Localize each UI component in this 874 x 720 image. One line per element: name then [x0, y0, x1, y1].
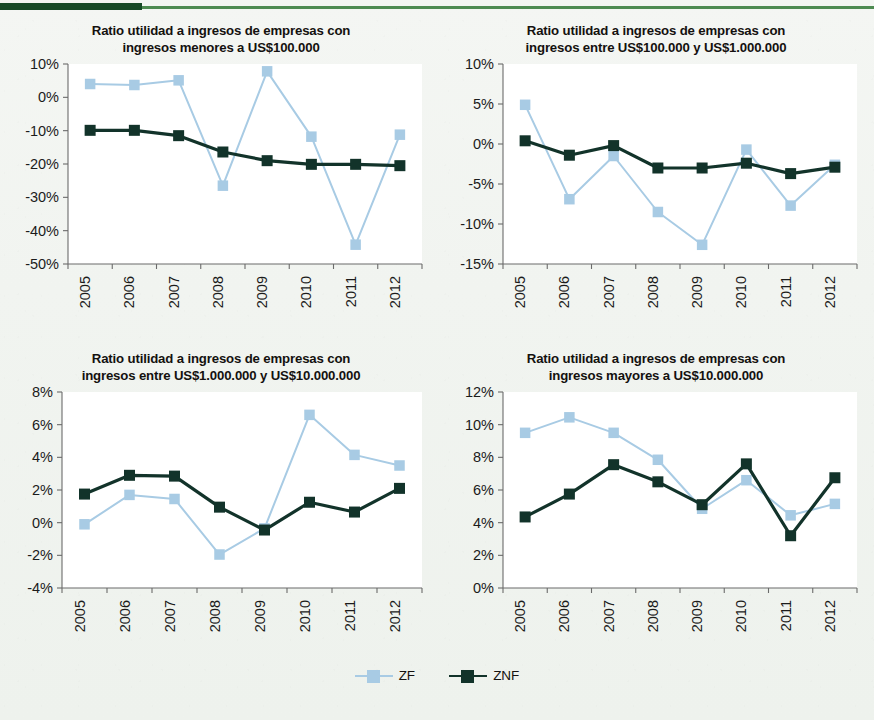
- chart-title-line-2: ingresos mayores a US$10.000.000: [441, 367, 871, 384]
- svg-text:2008: 2008: [645, 276, 661, 308]
- svg-text:10%: 10%: [465, 56, 494, 72]
- svg-text:-30%: -30%: [25, 189, 59, 205]
- svg-text:2006: 2006: [121, 276, 137, 308]
- svg-text:2011: 2011: [342, 600, 358, 631]
- svg-text:0%: 0%: [32, 515, 53, 531]
- svg-text:2011: 2011: [778, 600, 794, 631]
- legend-item-znf[interactable]: ZNF: [449, 668, 519, 683]
- legend-marker-square-icon: [367, 670, 380, 683]
- svg-text:-20%: -20%: [25, 156, 59, 172]
- svg-text:2006: 2006: [556, 600, 572, 632]
- chart-title-bottom-right: Ratio utilidad a ingresos de empresas co…: [441, 350, 871, 384]
- figure-page: Ratio utilidad a ingresos de empresas co…: [0, 0, 874, 720]
- svg-text:2006: 2006: [556, 276, 572, 308]
- plot-area-bottom-left: 8%6%4%2%0%-2%-4%200520062007200820092010…: [6, 384, 436, 662]
- svg-text:8%: 8%: [473, 449, 494, 465]
- plot-svg-top-right: 10%5%0%-5%-10%-15%2005200620072008200920…: [441, 56, 871, 344]
- svg-text:4%: 4%: [32, 449, 53, 465]
- svg-text:2005: 2005: [72, 600, 88, 632]
- svg-text:2011: 2011: [778, 276, 794, 307]
- chart-title-line-2: ingresos entre US$100.000 y US$1.000.000: [441, 39, 871, 56]
- plot-area-top-right: 10%5%0%-5%-10%-15%2005200620072008200920…: [441, 56, 871, 344]
- chart-title-line-2: ingresos entre US$1.000.000 y US$10.000.…: [6, 367, 436, 384]
- svg-text:12%: 12%: [465, 384, 494, 400]
- svg-text:-10%: -10%: [460, 216, 494, 232]
- svg-text:-15%: -15%: [460, 256, 494, 272]
- svg-text:0%: 0%: [473, 580, 494, 596]
- svg-text:2009: 2009: [252, 600, 268, 632]
- legend-swatch-zf: [355, 669, 393, 683]
- svg-text:0%: 0%: [473, 136, 494, 152]
- svg-text:2012: 2012: [822, 600, 838, 632]
- svg-text:-2%: -2%: [27, 547, 53, 563]
- svg-text:2007: 2007: [162, 600, 178, 632]
- svg-text:2005: 2005: [77, 276, 93, 308]
- svg-text:2%: 2%: [32, 482, 53, 498]
- chart-panel-bottom-right: Ratio utilidad a ingresos de empresas co…: [441, 350, 871, 670]
- legend-swatch-znf: [449, 669, 487, 683]
- svg-text:-4%: -4%: [27, 580, 53, 596]
- chart-panel-bottom-left: Ratio utilidad a ingresos de empresas co…: [6, 350, 436, 670]
- svg-text:2008: 2008: [210, 276, 226, 308]
- svg-text:2010: 2010: [297, 600, 313, 632]
- svg-text:-50%: -50%: [25, 256, 59, 272]
- plot-svg-bottom-left: 8%6%4%2%0%-2%-4%200520062007200820092010…: [6, 384, 436, 662]
- legend: ZF ZNF: [0, 668, 874, 683]
- svg-text:2008: 2008: [207, 600, 223, 632]
- svg-text:2007: 2007: [601, 600, 617, 632]
- svg-text:-40%: -40%: [25, 223, 59, 239]
- svg-text:10%: 10%: [30, 56, 59, 72]
- chart-title-bottom-left: Ratio utilidad a ingresos de empresas co…: [6, 350, 436, 384]
- plot-svg-top-left: 10%0%-10%-20%-30%-40%-50%200520062007200…: [6, 56, 436, 344]
- chart-grid: Ratio utilidad a ingresos de empresas co…: [0, 0, 874, 720]
- svg-text:2011: 2011: [343, 276, 359, 307]
- svg-text:2012: 2012: [387, 276, 403, 308]
- svg-text:2007: 2007: [601, 276, 617, 308]
- plot-area-top-left: 10%0%-10%-20%-30%-40%-50%200520062007200…: [6, 56, 436, 344]
- svg-text:6%: 6%: [32, 417, 53, 433]
- chart-title-line-1: Ratio utilidad a ingresos de empresas co…: [441, 22, 871, 39]
- svg-text:8%: 8%: [32, 384, 53, 400]
- svg-text:2005: 2005: [512, 600, 528, 632]
- svg-text:-5%: -5%: [468, 176, 494, 192]
- svg-text:6%: 6%: [473, 482, 494, 498]
- svg-text:2009: 2009: [689, 276, 705, 308]
- legend-marker-square-icon: [461, 670, 474, 683]
- chart-panel-top-right: Ratio utilidad a ingresos de empresas co…: [441, 22, 871, 352]
- legend-item-zf[interactable]: ZF: [355, 668, 416, 683]
- svg-text:2009: 2009: [689, 600, 705, 632]
- svg-text:5%: 5%: [473, 96, 494, 112]
- svg-text:2012: 2012: [387, 600, 403, 632]
- plot-area-bottom-right: 12%10%8%6%4%2%0%200520062007200820092010…: [441, 384, 871, 662]
- chart-title-line-2: ingresos menores a US$100.000: [6, 39, 436, 56]
- legend-label-zf: ZF: [399, 668, 416, 683]
- legend-label-znf: ZNF: [493, 668, 519, 683]
- svg-text:2010: 2010: [733, 600, 749, 632]
- svg-text:-10%: -10%: [25, 123, 59, 139]
- chart-title-line-1: Ratio utilidad a ingresos de empresas co…: [6, 350, 436, 367]
- chart-title-line-1: Ratio utilidad a ingresos de empresas co…: [441, 350, 871, 367]
- chart-title-top-left: Ratio utilidad a ingresos de empresas co…: [6, 22, 436, 56]
- plot-svg-bottom-right: 12%10%8%6%4%2%0%200520062007200820092010…: [441, 384, 871, 662]
- chart-title-top-right: Ratio utilidad a ingresos de empresas co…: [441, 22, 871, 56]
- svg-text:0%: 0%: [38, 89, 59, 105]
- svg-text:2012: 2012: [822, 276, 838, 308]
- svg-text:2009: 2009: [254, 276, 270, 308]
- svg-text:2007: 2007: [166, 276, 182, 308]
- svg-text:2010: 2010: [733, 276, 749, 308]
- svg-text:2006: 2006: [117, 600, 133, 632]
- svg-text:2008: 2008: [645, 600, 661, 632]
- svg-text:4%: 4%: [473, 515, 494, 531]
- chart-panel-top-left: Ratio utilidad a ingresos de empresas co…: [6, 22, 436, 352]
- svg-text:2005: 2005: [512, 276, 528, 308]
- svg-text:2010: 2010: [298, 276, 314, 308]
- svg-text:2%: 2%: [473, 547, 494, 563]
- svg-text:10%: 10%: [465, 417, 494, 433]
- chart-title-line-1: Ratio utilidad a ingresos de empresas co…: [6, 22, 436, 39]
